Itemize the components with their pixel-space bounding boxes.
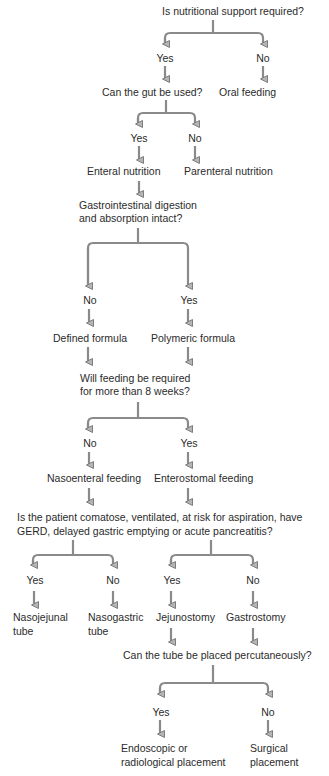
question-gi-digestion-line1: Gastrointestinal digestion xyxy=(79,199,197,212)
outcome-nasojejunal-line1: Nasojejunal xyxy=(13,611,68,624)
question-gut-usable: Can the gut be used? xyxy=(102,86,202,99)
q4-no-label: No xyxy=(83,437,96,450)
question-gi-digestion-line2: and absorption intact? xyxy=(79,212,182,225)
question-feeding-duration-line1: Will feeding be required xyxy=(80,372,190,385)
question-patient-risk-line2: GERD, delayed gastric emptying or acute … xyxy=(17,525,273,538)
q5-enterostomal-yes-label: Yes xyxy=(163,574,180,587)
q4-yes-label: Yes xyxy=(180,437,197,450)
q3-yes-label: Yes xyxy=(180,294,197,307)
q2-yes-label: Yes xyxy=(130,132,147,145)
outcome-polymeric-formula: Polymeric formula xyxy=(151,332,235,345)
outcome-defined-formula: Defined formula xyxy=(53,332,127,345)
outcome-nasogastric-line1: Nasogastric xyxy=(88,611,143,624)
q5-nasoenteral-yes-label: Yes xyxy=(26,574,43,587)
q5-enterostomal-no-label: No xyxy=(246,574,259,587)
q3-no-label: No xyxy=(83,294,96,307)
outcome-enteral-nutrition: Enteral nutrition xyxy=(87,165,161,178)
outcome-parenteral-nutrition: Parenteral nutrition xyxy=(184,165,273,178)
q1-no-label: No xyxy=(256,52,269,65)
outcome-enterostomal-feeding: Enterostomal feeding xyxy=(154,472,253,485)
q2-no-label: No xyxy=(188,132,201,145)
outcome-oral-feeding: Oral feeding xyxy=(219,86,276,99)
outcome-endoscopic-line2: radiological placement xyxy=(121,756,225,769)
flowchart-canvas: Is nutritional support required? Yes No … xyxy=(0,0,329,776)
question-patient-risk-line1: Is the patient comatose, ventilated, at … xyxy=(17,511,302,524)
outcome-surgical-line1: Surgical xyxy=(250,742,288,755)
question-percutaneous-placement: Can the tube be placed percutaneously? xyxy=(123,649,312,662)
outcome-nasoenteral-feeding: Nasoenteral feeding xyxy=(47,472,141,485)
q6-yes-label: Yes xyxy=(152,706,169,719)
outcome-gastrostomy: Gastrostomy xyxy=(226,611,286,624)
outcome-nasogastric-line2: tube xyxy=(88,625,108,638)
q1-yes-label: Yes xyxy=(156,52,173,65)
question-feeding-duration-line2: for more than 8 weeks? xyxy=(80,385,190,398)
outcome-jejunostomy: Jejunostomy xyxy=(156,611,215,624)
q6-no-label: No xyxy=(261,706,274,719)
outcome-nasojejunal-line2: tube xyxy=(13,625,33,638)
outcome-surgical-line2: placement xyxy=(250,756,298,769)
outcome-endoscopic-line1: Endoscopic or xyxy=(121,742,188,755)
q5-nasoenteral-no-label: No xyxy=(106,574,119,587)
question-nutritional-support: Is nutritional support required? xyxy=(162,5,304,18)
